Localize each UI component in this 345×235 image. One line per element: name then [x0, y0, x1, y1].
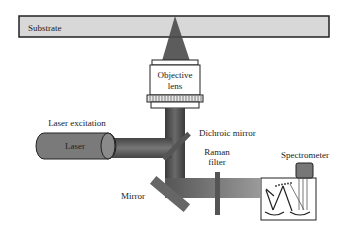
objective-label-1: Objective: [158, 70, 193, 80]
raman-filter: [215, 172, 220, 215]
raman-setup-diagram: Substrate Objective lens Laser L: [0, 0, 345, 235]
substrate-label: Substrate: [28, 23, 62, 33]
objective-label-2: lens: [168, 81, 183, 91]
raman-filter-label-1: Raman: [204, 147, 230, 157]
dichroic-mirror-label: Dichroic mirror: [199, 128, 256, 138]
spectrometer: Spectrometer: [261, 150, 329, 220]
objective-lens: Objective lens: [147, 60, 203, 108]
laser: Laser: [36, 133, 116, 159]
laser-excitation-label: Laser excitation: [48, 118, 106, 128]
spectrometer-label: Spectrometer: [281, 150, 329, 160]
raman-filter-label-2: filter: [208, 157, 226, 167]
raman-beam: [165, 178, 260, 198]
laser-label: Laser: [65, 141, 85, 151]
mirror-label: Mirror: [121, 191, 145, 201]
